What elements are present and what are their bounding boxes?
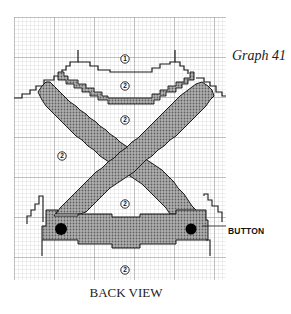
color-number-label: 2 [121, 116, 129, 124]
svg-text:1: 1 [123, 55, 127, 62]
figure-caption: BACK VIEW [0, 285, 252, 301]
graph-title: Graph 41 [232, 48, 286, 64]
color-number-label: 1 [121, 55, 129, 63]
button-right-icon [186, 224, 197, 235]
svg-text:2: 2 [123, 116, 127, 123]
svg-text:2: 2 [123, 266, 127, 273]
svg-text:2: 2 [60, 152, 64, 159]
button-left-icon [55, 223, 67, 235]
svg-text:2: 2 [123, 200, 127, 207]
color-number-label: 2 [58, 152, 66, 160]
color-number-label: 2 [121, 200, 129, 208]
color-number-label: 2 [121, 266, 129, 274]
button-callout-label: BUTTON [228, 226, 264, 236]
svg-text:2: 2 [123, 82, 127, 89]
color-number-label: 2 [121, 82, 129, 90]
